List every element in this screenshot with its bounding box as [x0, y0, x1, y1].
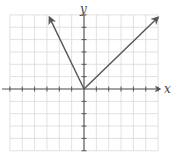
- x-axis-label: x: [164, 82, 171, 96]
- graph: y x: [0, 0, 173, 161]
- graph-curves: [49, 17, 158, 89]
- left-branch: [49, 17, 84, 89]
- y-axis-label: y: [79, 2, 87, 16]
